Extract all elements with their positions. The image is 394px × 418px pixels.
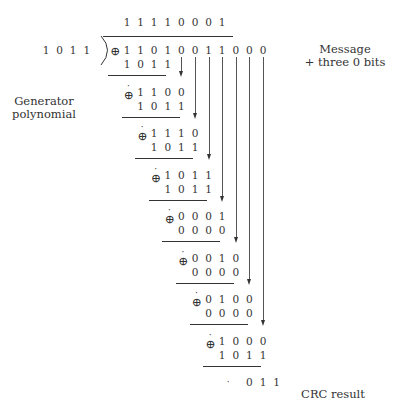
arrow-down-icon bbox=[261, 320, 265, 326]
subtract-digit: 1 bbox=[149, 58, 159, 70]
dividend-digit: 0 bbox=[258, 44, 268, 56]
divisor-digit: 1 bbox=[41, 44, 51, 56]
subtract-digit: 0 bbox=[176, 183, 186, 195]
subtract-digit: 0 bbox=[204, 307, 214, 319]
divider-line bbox=[135, 158, 193, 159]
step-digit: 0 bbox=[204, 252, 214, 264]
divisor-digit: 1 bbox=[68, 44, 78, 56]
subtract-digit: 1 bbox=[163, 58, 173, 70]
dot-marker: · bbox=[154, 165, 157, 174]
step-digit: 0 bbox=[190, 210, 200, 222]
subtract-digit: 1 bbox=[136, 100, 146, 112]
dividend-digit: 0 bbox=[149, 44, 159, 56]
step-digit: 1 bbox=[149, 86, 159, 98]
carry-down-line bbox=[249, 57, 250, 279]
dot-marker: · bbox=[127, 82, 130, 91]
crc-digit: 0 bbox=[244, 376, 254, 388]
subtract-digit: 0 bbox=[204, 224, 214, 236]
step-digit: 1 bbox=[136, 86, 146, 98]
arrow-down-icon bbox=[207, 154, 211, 160]
step-digit: 0 bbox=[163, 86, 173, 98]
divider-line bbox=[162, 241, 220, 242]
subtract-digit: 0 bbox=[217, 266, 227, 278]
step-digit: 1 bbox=[217, 293, 227, 305]
carry-down-line bbox=[236, 57, 237, 237]
step-digit: 1 bbox=[204, 169, 214, 181]
dot-marker: · bbox=[195, 289, 198, 298]
crc-digit: 1 bbox=[258, 376, 268, 388]
arrow-down-icon bbox=[234, 237, 238, 243]
subtract-digit: 1 bbox=[149, 141, 159, 153]
subtract-digit: 1 bbox=[204, 183, 214, 195]
division-bracket-icon bbox=[0, 0, 394, 418]
step-digit: 1 bbox=[163, 127, 173, 139]
divisor-digit: 0 bbox=[55, 44, 65, 56]
step-digit: 1 bbox=[176, 127, 186, 139]
arrow-down-icon bbox=[220, 196, 224, 202]
dividend-digit: 0 bbox=[231, 44, 241, 56]
divider-line bbox=[149, 200, 207, 201]
step-digit: 0 bbox=[204, 293, 214, 305]
subtract-digit: 0 bbox=[149, 100, 159, 112]
subtract-digit: 1 bbox=[217, 349, 227, 361]
subtract-digit: 1 bbox=[163, 183, 173, 195]
subtract-digit: 0 bbox=[244, 307, 254, 319]
arrow-down-icon bbox=[179, 71, 183, 77]
step-digit: 1 bbox=[163, 169, 173, 181]
step-digit: 0 bbox=[176, 210, 186, 222]
step-digit: 1 bbox=[149, 127, 159, 139]
subtract-digit: 1 bbox=[244, 349, 254, 361]
dot-marker: · bbox=[209, 331, 212, 340]
dividend-digit: 1 bbox=[163, 44, 173, 56]
step-digit: 1 bbox=[217, 252, 227, 264]
subtract-digit: 0 bbox=[231, 307, 241, 319]
subtract-digit: 1 bbox=[190, 183, 200, 195]
xor-icon: ⊕ bbox=[110, 45, 120, 57]
divider-line bbox=[190, 324, 248, 325]
subtract-digit: 1 bbox=[176, 141, 186, 153]
carry-down-line bbox=[222, 57, 223, 196]
step-digit: 0 bbox=[258, 335, 268, 347]
carry-down-line bbox=[181, 57, 182, 71]
step-digit: 0 bbox=[231, 335, 241, 347]
dot-marker: · bbox=[182, 248, 185, 257]
divider-line bbox=[122, 117, 180, 118]
carry-down-line bbox=[263, 57, 264, 320]
subtract-digit: 0 bbox=[231, 266, 241, 278]
subtract-digit: 1 bbox=[176, 100, 186, 112]
subtract-digit: 0 bbox=[136, 58, 146, 70]
subtract-digit: 0 bbox=[190, 224, 200, 236]
subtract-digit: 1 bbox=[163, 100, 173, 112]
subtract-digit: 0 bbox=[163, 141, 173, 153]
step-digit: 0 bbox=[231, 293, 241, 305]
arrow-down-icon bbox=[193, 113, 197, 119]
dividend-digit: 1 bbox=[122, 44, 132, 56]
dividend-digit: 1 bbox=[217, 44, 227, 56]
crc-digit: 1 bbox=[272, 376, 282, 388]
dividend-digit: 0 bbox=[190, 44, 200, 56]
step-digit: 1 bbox=[217, 210, 227, 222]
divisor-digit: 1 bbox=[82, 44, 92, 56]
dividend-digit: 1 bbox=[136, 44, 146, 56]
subtract-digit: 0 bbox=[231, 349, 241, 361]
step-digit: 0 bbox=[176, 86, 186, 98]
subtract-digit: 0 bbox=[204, 266, 214, 278]
divider-line bbox=[108, 75, 166, 76]
step-digit: 1 bbox=[190, 169, 200, 181]
subtract-digit: 0 bbox=[217, 224, 227, 236]
subtract-digit: 1 bbox=[258, 349, 268, 361]
step-digit: 0 bbox=[190, 127, 200, 139]
subtract-digit: 0 bbox=[217, 307, 227, 319]
dot-marker: · bbox=[141, 123, 144, 132]
arrow-down-icon bbox=[247, 279, 251, 285]
step-digit: 0 bbox=[244, 293, 254, 305]
dot-marker: · bbox=[168, 206, 171, 215]
dot-marker: · bbox=[227, 378, 230, 387]
step-digit: 0 bbox=[176, 169, 186, 181]
carry-down-line bbox=[209, 57, 210, 154]
step-digit: 0 bbox=[190, 252, 200, 264]
dividend-digit: 0 bbox=[176, 44, 186, 56]
subtract-digit: 1 bbox=[122, 58, 132, 70]
step-digit: 0 bbox=[244, 335, 254, 347]
step-digit: 1 bbox=[217, 335, 227, 347]
